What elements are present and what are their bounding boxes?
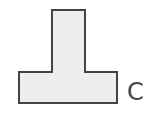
t-shape-figure: [0, 0, 148, 115]
t-shape-polygon: [19, 10, 117, 103]
shape-label: C: [127, 80, 144, 104]
